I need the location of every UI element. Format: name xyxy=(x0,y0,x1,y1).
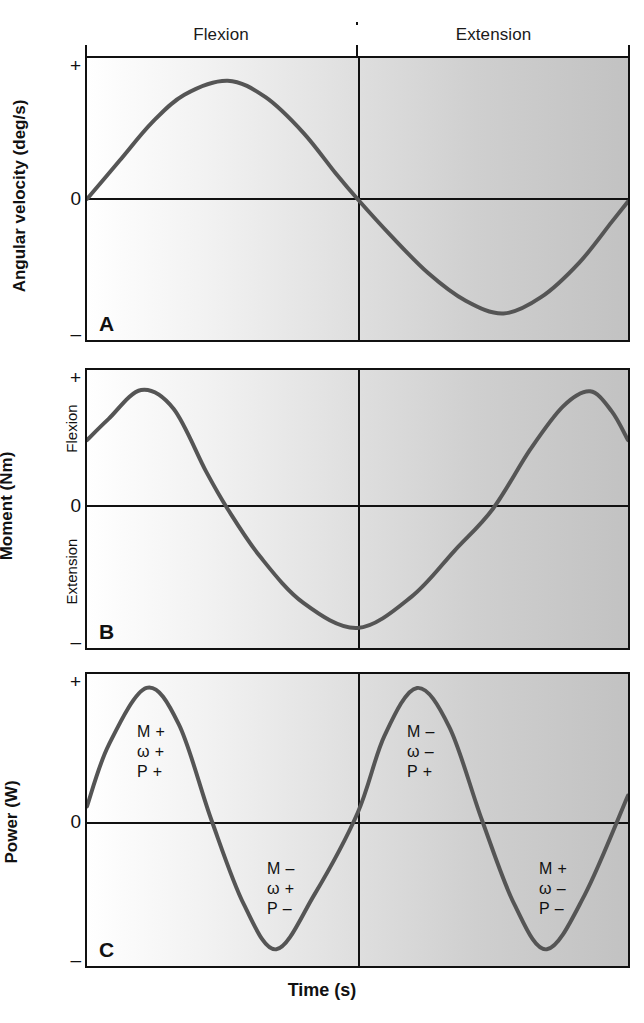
annotation-2-line-1: M – xyxy=(267,859,295,879)
yaxis-panel-b: + 0 – Moment (Nm) Flexion Extension xyxy=(0,368,85,650)
ylabel-panel-b: Moment (Nm) xyxy=(0,366,17,646)
ytick-a-zero: 0 xyxy=(70,189,81,208)
phase-label-flexion: Flexion xyxy=(186,25,256,44)
annotation-2-line-2: ω + xyxy=(267,879,295,899)
ytick-c-plus: + xyxy=(70,672,81,691)
ylabel-panel-c: Power (W) xyxy=(2,692,22,952)
ytick-a-minus: – xyxy=(70,324,81,343)
plot-area-c: M + ω + P + M – ω + P – M – ω – P + M + … xyxy=(85,672,630,968)
ytick-c-zero: 0 xyxy=(70,812,81,831)
annotation-3-line-3: P + xyxy=(407,762,435,782)
inner-label-b-extension: Extension xyxy=(63,502,80,642)
annotation-quadrant-3: M – ω – P + xyxy=(407,722,435,782)
phase-segment-extension: Extension xyxy=(357,22,630,56)
ytick-a-plus: + xyxy=(70,56,81,75)
panel-letter-b: B xyxy=(99,620,114,644)
curve-power xyxy=(87,674,628,966)
phase-segment-flexion: Flexion xyxy=(85,22,357,56)
inner-label-b-flexion: Flexion xyxy=(63,369,80,489)
annotation-3-line-2: ω – xyxy=(407,742,435,762)
panel-b: B xyxy=(85,368,630,650)
panel-a: A xyxy=(85,56,630,342)
annotation-4-line-2: ω – xyxy=(539,879,567,899)
curve-moment xyxy=(87,370,628,648)
plot-area-a: A xyxy=(85,56,630,342)
phase-label-extension: Extension xyxy=(449,25,539,44)
annotation-1-line-2: ω + xyxy=(137,742,165,762)
annotation-4-line-1: M + xyxy=(539,859,567,879)
plot-area-b: B xyxy=(85,368,630,650)
annotation-2-line-3: P – xyxy=(267,899,295,919)
annotation-quadrant-4: M + ω – P – xyxy=(539,859,567,919)
annotation-1-line-3: P + xyxy=(137,762,165,782)
panel-letter-c: C xyxy=(99,938,114,962)
ytick-c-minus: – xyxy=(70,950,81,969)
extension-label-wrap: Extension xyxy=(357,25,630,45)
biomechanics-figure: Flexion Extension + 0 – Angular velocity… xyxy=(0,0,644,1023)
annotation-4-line-3: P – xyxy=(539,899,567,919)
annotation-quadrant-2: M – ω + P – xyxy=(267,859,295,919)
ylabel-panel-a: Angular velocity (deg/s) xyxy=(10,56,30,336)
annotation-quadrant-1: M + ω + P + xyxy=(137,722,165,782)
panel-letter-a: A xyxy=(99,312,114,336)
flexion-label-wrap: Flexion xyxy=(85,25,357,45)
panel-c: M + ω + P + M – ω + P – M – ω – P + M + … xyxy=(85,672,630,968)
annotation-3-line-1: M – xyxy=(407,722,435,742)
curve-angular-velocity xyxy=(87,58,628,340)
yaxis-panel-a: + 0 – Angular velocity (deg/s) xyxy=(0,56,85,342)
phase-header: Flexion Extension xyxy=(85,22,630,56)
yaxis-panel-c: + 0 – Power (W) xyxy=(0,672,85,968)
xaxis-title: Time (s) xyxy=(0,980,644,1001)
annotation-1-line-1: M + xyxy=(137,722,165,742)
